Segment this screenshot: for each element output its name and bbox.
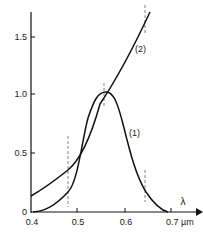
x-tick-label: 0.5: [72, 217, 85, 227]
x-axis-arrow-icon: [196, 208, 203, 216]
y-tick-label: 0.5: [14, 148, 27, 158]
curve-1: [33, 92, 168, 212]
curve-2: [31, 12, 150, 196]
curve-2-label: (2): [135, 44, 146, 54]
x-tick-label-unit: 0.7 µm: [166, 217, 194, 227]
spectral-chart: 1.5 1.0 0.5 0 0.4 0.5 0.6 0.7 µm λ (2) (…: [0, 0, 203, 233]
curve-1-label: (1): [129, 128, 140, 138]
y-tick-label: 1.5: [14, 32, 27, 42]
x-tick-label: 0.4: [26, 217, 39, 227]
y-tick-label: 1.0: [14, 89, 27, 99]
x-axis-symbol: λ: [181, 196, 186, 207]
y-tick-label: 0: [22, 207, 27, 217]
x-tick-label: 0.6: [120, 217, 133, 227]
